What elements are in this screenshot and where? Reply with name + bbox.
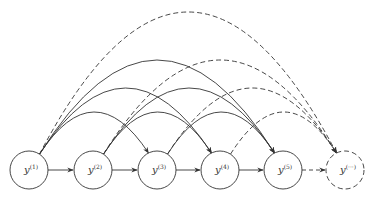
arc-edge-y3-y5 bbox=[167, 112, 274, 154]
arc-edge-y2-y5 bbox=[103, 88, 274, 154]
arc-edge-y4-ydots bbox=[230, 112, 336, 154]
arc-edge-y1-y3 bbox=[39, 112, 148, 154]
arc-edge-y1-y4 bbox=[39, 88, 211, 154]
node-y2: y(2) bbox=[74, 151, 112, 189]
node-y3: y(3) bbox=[138, 151, 176, 189]
arc-edge-y1-ydots bbox=[39, 12, 336, 154]
node-y5: y(5) bbox=[264, 151, 302, 189]
arc-edge-y2-ydots bbox=[103, 60, 336, 154]
node-ydots: y(···) bbox=[326, 151, 364, 189]
dependency-diagram: y(1)y(2)y(3)y(4)y(5)y(···) bbox=[0, 0, 376, 198]
node-y1: y(1) bbox=[10, 151, 48, 189]
arc-edges bbox=[39, 12, 336, 154]
node-y4: y(4) bbox=[201, 151, 239, 189]
arc-edge-y1-y5 bbox=[39, 60, 274, 154]
arc-edge-y2-y4 bbox=[103, 112, 211, 154]
